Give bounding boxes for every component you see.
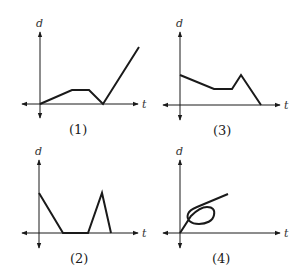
panel-3-curve xyxy=(180,75,261,105)
panel-4-curve xyxy=(180,194,228,233)
panel-4-label: (4) xyxy=(212,251,230,266)
panel-1: d t (1) xyxy=(22,17,147,137)
panel-2-d-label: d xyxy=(35,145,42,158)
panel-3-label: (3) xyxy=(213,123,231,138)
panel-3-d-label: d xyxy=(176,17,183,30)
panel-4-d-label: d xyxy=(176,145,183,158)
panel-2: d t (2) xyxy=(22,145,147,266)
panel-2-t-label: t xyxy=(142,227,147,240)
panel-2-curve xyxy=(39,193,111,233)
panel-1-d-label: d xyxy=(36,17,43,30)
panel-1-curve xyxy=(40,47,139,104)
panel-1-t-label: t xyxy=(142,98,147,111)
panel-3: d t (3) xyxy=(163,17,289,138)
panel-1-label: (1) xyxy=(69,122,87,137)
panel-4: d t (4) xyxy=(163,145,289,266)
graphs-figure: d t (1) d t (3) d t (2) d t (4) xyxy=(0,0,300,280)
panel-3-t-label: t xyxy=(284,99,289,112)
panel-2-label: (2) xyxy=(70,251,88,266)
panel-4-t-label: t xyxy=(284,227,289,240)
